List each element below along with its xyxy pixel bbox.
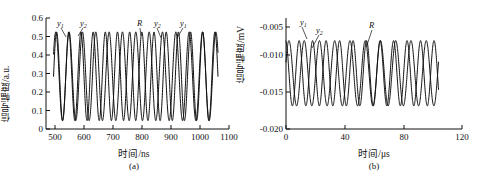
- annotation-R-b: R: [367, 20, 375, 45]
- svg-text:y1: y1: [299, 17, 307, 28]
- y-tick-label: -0.015: [260, 87, 284, 97]
- x-tick-label: 80: [400, 132, 410, 142]
- svg-text:y2: y2: [153, 18, 161, 29]
- x-tick-label: 800: [135, 132, 149, 142]
- ann-sub: 1: [304, 22, 307, 28]
- x-ticks-a: [55, 125, 229, 129]
- svg-text:R: R: [368, 20, 375, 30]
- ann-sub: 2: [84, 23, 87, 29]
- x-tick-label: 900: [164, 132, 178, 142]
- ann-sub: 2: [320, 30, 323, 36]
- curve-y1-b: [286, 41, 439, 106]
- y-tick-label: -0.020: [260, 124, 284, 134]
- x-tick-labels-b: 0 40 80 120: [284, 132, 470, 142]
- chart-panel-a: 信号幅度/a.u. 0 0.1 0.2 0.3 0.4 0.5: [0, 0, 243, 181]
- y-tick-label: 0: [39, 124, 44, 134]
- caption-a: (a): [46, 161, 222, 171]
- svg-text:y1: y1: [56, 18, 64, 29]
- x-tick-label: 700: [106, 132, 120, 142]
- y-tick-label: 0.5: [32, 32, 44, 42]
- chart-panel-b: 信号幅度/mV -0.020 -0.015 -0.010 -0.005: [243, 0, 486, 181]
- x-tick-label: 1100: [220, 132, 238, 142]
- x-tick-label: 1000: [191, 132, 210, 142]
- y-tick-label: -0.005: [260, 22, 284, 32]
- x-tick-label: 0: [284, 132, 289, 142]
- annotation-y1-right-a: y1: [177, 18, 187, 38]
- ann-label: R: [136, 18, 143, 28]
- x-ticks-b: [286, 125, 462, 129]
- ann-label: R: [368, 20, 375, 30]
- ann-sub: 2: [158, 23, 161, 29]
- svg-text:y1: y1: [179, 18, 187, 29]
- axis-lines-b: [286, 18, 462, 129]
- svg-text:R: R: [136, 18, 143, 28]
- annotation-y2-right-a: y2: [153, 18, 161, 38]
- caption-b: (b): [286, 161, 462, 171]
- annotation-y1-b: y1: [299, 17, 307, 39]
- y-tick-label: -0.010: [260, 50, 284, 60]
- ann-sub: 1: [184, 23, 187, 29]
- x-tick-label: 120: [455, 132, 469, 142]
- x-tick-label: 40: [341, 132, 351, 142]
- y-tick-label: 0.1: [32, 106, 43, 116]
- x-tick-labels-a: 500 600 700 800 900 1000 1100: [48, 132, 238, 142]
- figure-container: 信号幅度/a.u. 0 0.1 0.2 0.3 0.4 0.5: [0, 0, 486, 181]
- x-tick-label: 600: [77, 132, 91, 142]
- y-tick-label: 0.4: [32, 50, 44, 60]
- y-ticks-a: [46, 18, 50, 129]
- svg-text:y2: y2: [315, 25, 323, 36]
- y-tick-label: 0.3: [32, 69, 44, 79]
- y-tick-labels-b: -0.020 -0.015 -0.010 -0.005: [260, 22, 284, 134]
- x-tick-label: 500: [48, 132, 62, 142]
- curve-y1-a: [54, 32, 218, 121]
- y-tick-labels-a: 0 0.1 0.2 0.3 0.4 0.5 0.6: [32, 13, 44, 134]
- y-tick-label: 0.6: [32, 13, 44, 23]
- x-axis-label-b: 时间/μs: [286, 146, 462, 160]
- svg-text:y2: y2: [79, 18, 87, 29]
- x-axis-label-a: 时间/ns: [46, 146, 222, 160]
- y-tick-label: 0.2: [32, 87, 43, 97]
